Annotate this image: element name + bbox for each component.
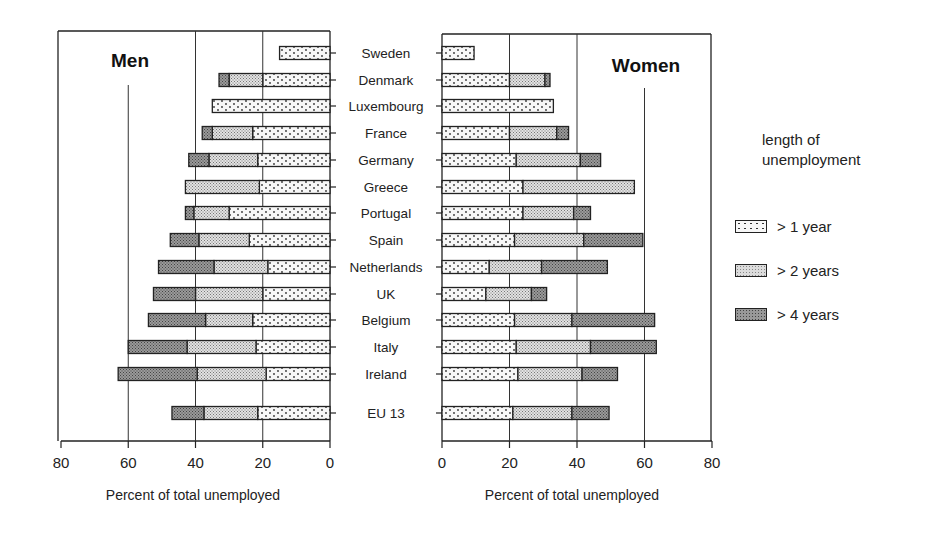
bar-denmark [219,74,330,87]
bar-france [442,127,569,140]
women-panel: 020406080 [436,34,720,471]
country-label: Portugal [361,206,411,221]
country-label: EU 13 [367,406,405,421]
men-panel: 806040200 [53,31,336,471]
bar-ireland [118,368,330,381]
svg-text:20: 20 [501,454,518,471]
svg-text:40: 40 [569,454,586,471]
legend-item-4-years: > 4 years [735,304,935,324]
svg-text:60: 60 [636,454,653,471]
bar-belgium [442,314,655,327]
men-title: Men [111,50,149,71]
swatch-2-years-icon [735,264,767,277]
svg-text:80: 80 [704,454,721,471]
country-label: Germany [358,153,414,168]
bar-uk [442,288,547,301]
legend-item-2-years: > 2 years [735,260,935,280]
legend-title: length of unemployment [762,130,935,170]
country-label: France [365,126,407,141]
svg-text:0: 0 [326,454,334,471]
bar-belgium [148,314,330,327]
country-label: Spain [369,233,404,248]
country-label: Netherlands [350,260,423,275]
bar-italy [442,341,656,354]
bar-eu-13 [442,407,609,420]
bar-spain [170,234,330,247]
bar-netherlands [442,261,607,274]
bar-netherlands [159,261,330,274]
legend-title-line-2: unemployment [762,150,935,170]
country-labels: SwedenDenmarkLuxembourgFranceGermanyGree… [348,46,423,421]
bar-denmark [442,74,550,87]
legend-label-1-year: > 1 year [777,218,832,235]
country-label: Italy [374,340,399,355]
bar-italy [128,341,330,354]
country-label: Belgium [362,313,411,328]
bar-greece [185,181,330,194]
country-label: Denmark [359,73,414,88]
swatch-1-year-icon [735,220,767,233]
country-label: Sweden [362,46,411,61]
svg-text:20: 20 [254,454,271,471]
bar-germany [189,154,330,167]
country-label: Ireland [365,367,406,382]
legend-label-2-years: > 2 years [777,262,839,279]
bar-ireland [442,368,618,381]
men-x-axis-label: Percent of total unemployed [106,487,280,503]
bar-germany [442,154,601,167]
legend-label-4-years: > 4 years [777,306,839,323]
legend: length of unemployment > 1 year > 2 year… [735,130,935,324]
country-label: UK [377,287,396,302]
legend-title-line-1: length of [762,130,935,150]
bar-portugal [185,207,330,220]
bar-france [202,127,330,140]
country-label: Luxembourg [348,99,423,114]
bar-luxembourg [212,100,330,113]
women-x-axis-label: Percent of total unemployed [485,487,659,503]
svg-text:80: 80 [53,454,70,471]
bar-uk [153,288,330,301]
women-title: Women [612,55,680,76]
svg-text:40: 40 [187,454,204,471]
bar-portugal [442,207,591,220]
svg-text:60: 60 [120,454,137,471]
bar-eu-13 [172,407,330,420]
bar-greece [442,181,634,194]
country-label: Greece [364,180,408,195]
bar-spain [442,234,643,247]
swatch-4-years-icon [735,308,767,321]
legend-item-1-year: > 1 year [735,216,935,236]
bar-luxembourg [442,100,553,113]
bar-sweden [280,47,330,60]
svg-text:0: 0 [438,454,446,471]
bar-sweden [442,47,474,60]
